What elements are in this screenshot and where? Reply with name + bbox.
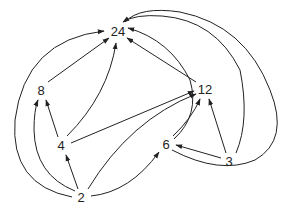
edge-4-to-8 — [46, 100, 58, 137]
edge-2-to-12 — [88, 94, 196, 189]
edge-4-to-24 — [67, 43, 116, 136]
node-3: 3 — [225, 154, 232, 169]
edge-3-to-12 — [209, 99, 226, 153]
edge-2-to-4 — [66, 155, 78, 189]
node-24: 24 — [111, 24, 125, 39]
edge-2-to-8 — [34, 100, 75, 191]
edge-2-to-24 — [15, 31, 104, 197]
edge-8-to-24 — [48, 38, 109, 82]
edge-3-to-24 — [123, 16, 244, 153]
edge-6-to-12 — [173, 99, 200, 136]
node-4: 4 — [57, 138, 64, 153]
edge-3-to-6 — [176, 145, 221, 158]
node-12: 12 — [198, 82, 212, 97]
node-8: 8 — [37, 83, 44, 98]
divisor-graph: 24 8 12 4 6 3 2 — [0, 0, 294, 214]
node-2: 2 — [77, 190, 84, 205]
edge-2-to-6 — [91, 152, 159, 196]
node-6: 6 — [162, 137, 169, 152]
edge-4-to-12 — [71, 91, 194, 143]
